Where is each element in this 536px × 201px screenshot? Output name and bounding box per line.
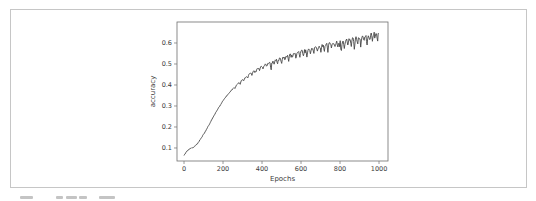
caption-text-remnant — [20, 196, 33, 199]
figure-frame: 020040060080010000.10.20.30.40.50.6Epoch… — [10, 9, 527, 188]
x-tick-label: 200 — [217, 165, 229, 173]
caption-text-remnant — [56, 196, 63, 199]
axes-box — [177, 22, 388, 161]
x-tick-label: 0 — [182, 165, 186, 173]
cropped-caption-fragment — [0, 195, 536, 201]
caption-text-remnant — [99, 196, 115, 199]
y-tick-label: 0.6 — [162, 39, 172, 47]
y-tick-label: 0.4 — [162, 81, 172, 89]
y-tick-label: 0.3 — [162, 102, 172, 110]
y-axis-label: accuracy — [149, 76, 157, 108]
x-axis-label: Epochs — [270, 175, 295, 183]
caption-text-remnant — [79, 196, 87, 199]
accuracy-line-chart: 020040060080010000.10.20.30.40.50.6Epoch… — [11, 10, 526, 187]
caption-text-remnant — [66, 196, 77, 199]
y-tick-label: 0.2 — [162, 123, 172, 131]
document-page: { "figure": { "frame_border_color": "#c6… — [0, 0, 536, 201]
y-tick-label: 0.1 — [162, 144, 172, 152]
x-tick-label: 1000 — [371, 165, 388, 173]
x-tick-label: 400 — [256, 165, 268, 173]
x-tick-label: 600 — [295, 165, 307, 173]
accuracy-series-line — [184, 32, 379, 155]
x-tick-label: 800 — [334, 165, 346, 173]
y-tick-label: 0.5 — [162, 60, 172, 68]
